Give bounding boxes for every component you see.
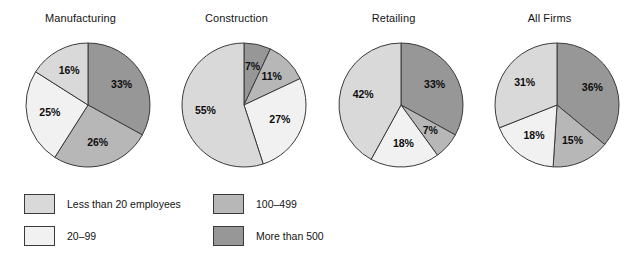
pie-slice-value-label: 42% [352,88,374,100]
chart-legend: Less than 20 employees 20–99 100–499 Mor… [0,186,630,273]
pie-graphic: 36%15%18%31% [471,34,628,176]
pie-svg: 33%26%25%16% [10,34,152,176]
pie-slice-value-label: 33% [111,78,133,90]
pie-title: Retailing [315,12,472,24]
pie-graphic: 7%11%27%55% [158,34,315,176]
pie-svg: 7%11%27%55% [166,34,308,176]
pie-chart-retailing: Retailing 33%7%18%42% [315,0,472,180]
legend-swatch-icon [24,194,55,214]
legend-swatch-icon [213,194,244,214]
pie-title: All Firms [471,12,628,24]
pie-slice-value-label: 27% [269,113,291,125]
legend-label: 20–99 [67,229,96,243]
legend-swatch-icon [213,226,244,246]
pie-slice-value-label: 33% [424,78,446,90]
pie-svg: 33%7%18%42% [323,34,465,176]
legend-label: Less than 20 employees [67,197,181,211]
pie-chart-row: Manufacturing 33%26%25%16% Construction … [0,0,630,180]
pie-svg: 36%15%18%31% [479,34,621,176]
pie-slice-value-label: 26% [87,136,109,148]
legend-label: More than 500 [256,229,324,243]
pie-graphic: 33%7%18%42% [315,34,472,176]
pie-slice-value-label: 36% [581,81,603,93]
pie-graphic: 33%26%25%16% [2,34,159,176]
pie-slice-value-label: 11% [261,70,282,82]
pie-chart-construction: Construction 7%11%27%55% [158,0,315,180]
pie-slice-value-label: 55% [194,104,216,116]
legend-label: 100–499 [256,197,297,211]
pie-chart-manufacturing: Manufacturing 33%26%25%16% [2,0,159,180]
pie-slice-value-label: 18% [392,137,414,149]
pie-slice-value-label: 31% [514,76,536,88]
pie-slice-value-label: 25% [39,106,61,118]
pie-chart-all-firms: All Firms 36%15%18%31% [471,0,628,180]
pie-title: Manufacturing [2,12,159,24]
pie-chart-figure: Manufacturing 33%26%25%16% Construction … [0,0,630,273]
pie-slice-value-label: 15% [562,134,584,146]
pie-slice-value-label: 18% [523,129,545,141]
legend-swatch-icon [24,226,55,246]
pie-slice-value-label: 7% [422,124,438,136]
pie-slice-value-label: 7% [244,60,260,72]
pie-title: Construction [158,12,315,24]
pie-slice-value-label: 16% [58,64,80,76]
